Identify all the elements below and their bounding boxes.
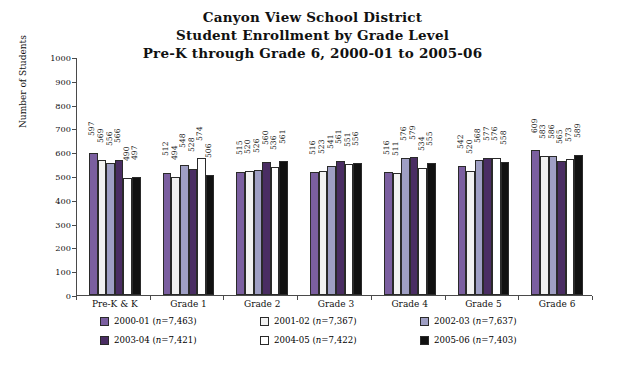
- bar: 548: [180, 165, 189, 295]
- x-axis-tick-label: Grade 1: [163, 299, 215, 309]
- bar-value-label: 579: [405, 144, 414, 159]
- bar: 534: [418, 168, 427, 295]
- legend-swatch: [100, 336, 109, 345]
- bar: 576: [401, 158, 410, 295]
- y-axis-tick-mark: [72, 248, 76, 249]
- bar-value-label: 516: [379, 159, 388, 174]
- bar: 569: [98, 160, 107, 295]
- legend-item: 2005-06 (n=7,403): [420, 335, 580, 345]
- x-axis-tick-mark: [518, 296, 519, 300]
- bar: 609: [531, 150, 540, 295]
- bar: 568: [475, 160, 484, 295]
- y-axis-tick-mark: [72, 201, 76, 202]
- bar: 490: [123, 178, 132, 295]
- bar: 542: [458, 166, 467, 295]
- bar-value-label: 512: [158, 160, 167, 175]
- bar-group: 512494548528574506Grade 1: [163, 57, 215, 295]
- legend-label: 2000-01 (n=7,463): [114, 316, 197, 326]
- legend-swatch: [260, 317, 269, 326]
- bar: 561: [279, 161, 288, 295]
- bar-value-label: 583: [535, 143, 544, 158]
- legend-swatch: [420, 317, 429, 326]
- bar: 556: [106, 163, 115, 295]
- y-axis-tick-mark: [72, 58, 76, 59]
- enrollment-bar-chart: Canyon View School District Student Enro…: [0, 0, 625, 380]
- x-axis-line: [76, 295, 592, 296]
- bar: 579: [410, 157, 419, 295]
- chart-title-block: Canyon View School District Student Enro…: [0, 8, 625, 62]
- y-axis-label: Number of Students: [18, 35, 28, 128]
- bar-value-label: 494: [167, 164, 176, 179]
- x-axis-tick-label: Pre-K & K: [89, 299, 141, 309]
- bar: 511: [393, 173, 402, 295]
- bar-value-label: 497: [127, 163, 136, 178]
- y-axis-tick-mark: [72, 129, 76, 130]
- y-axis-tick-mark: [72, 82, 76, 83]
- bar: 576: [492, 158, 501, 295]
- bar: 520: [466, 171, 475, 295]
- bar: 516: [384, 172, 393, 295]
- x-axis-tick-label: Grade 3: [310, 299, 362, 309]
- bar-value-label: 566: [110, 147, 119, 162]
- legend-swatch: [100, 317, 109, 326]
- bar: 494: [171, 177, 180, 295]
- bar-group: 516523541561551556Grade 3: [310, 57, 362, 295]
- bar-value-label: 573: [561, 145, 570, 160]
- bar: 555: [427, 163, 436, 295]
- y-axis-tick-mark: [72, 153, 76, 154]
- x-axis-tick-mark: [445, 296, 446, 300]
- bar-value-label: 523: [314, 157, 323, 172]
- y-axis-tick-mark: [72, 272, 76, 273]
- bar: 560: [262, 162, 271, 295]
- legend-item: 2001-02 (n=7,367): [260, 316, 420, 326]
- bar: 528: [189, 169, 198, 295]
- bar: 565: [557, 161, 566, 295]
- bar-value-label: 597: [84, 139, 93, 154]
- bar: 577: [483, 158, 492, 295]
- plot-area: 0100200300400500600700800900100059756955…: [76, 58, 592, 296]
- bar: 526: [254, 170, 263, 295]
- chart-title: Canyon View School District: [0, 8, 625, 26]
- bar-value-label: 569: [93, 146, 102, 161]
- legend-label: 2001-02 (n=7,367): [274, 316, 357, 326]
- legend-item: 2000-01 (n=7,463): [100, 316, 260, 326]
- bar-value-label: 561: [275, 148, 284, 163]
- legend-swatch: [260, 336, 269, 345]
- bar: 536: [271, 167, 280, 295]
- y-axis-tick-mark: [72, 177, 76, 178]
- bar: 558: [501, 162, 510, 295]
- bar: 566: [115, 160, 124, 295]
- chart-legend: 2000-01 (n=7,463)2001-02 (n=7,367)2002-0…: [100, 316, 550, 345]
- legend-label: 2003-04 (n=7,421): [114, 335, 197, 345]
- bar: 497: [132, 177, 141, 295]
- bar: 520: [245, 171, 254, 295]
- bar-value-label: 555: [422, 149, 431, 164]
- bar: 556: [353, 163, 362, 295]
- x-axis-tick-mark: [297, 296, 298, 300]
- x-axis-tick-mark: [371, 296, 372, 300]
- bar-group: 516511576579534555Grade 4: [384, 57, 436, 295]
- legend-label: 2002-03 (n=7,637): [434, 316, 517, 326]
- bar-value-label: 568: [470, 146, 479, 161]
- bar-value-label: 511: [388, 160, 397, 175]
- bar: 574: [197, 158, 206, 295]
- legend-item: 2003-04 (n=7,421): [100, 335, 260, 345]
- legend-label: 2004-05 (n=7,422): [274, 335, 357, 345]
- bar: 551: [345, 164, 354, 295]
- bar-value-label: 589: [570, 141, 579, 156]
- bar-value-label: 536: [266, 154, 275, 169]
- x-axis-tick-label: Grade 5: [458, 299, 510, 309]
- x-axis-tick-mark: [150, 296, 151, 300]
- bar: 573: [566, 159, 575, 295]
- legend-swatch: [420, 336, 429, 345]
- bar-value-label: 542: [453, 153, 462, 168]
- bar: 523: [319, 171, 328, 295]
- y-axis-line: [76, 58, 77, 296]
- bar: 541: [327, 166, 336, 295]
- bar: 512: [163, 173, 172, 295]
- x-axis-tick-mark: [592, 296, 593, 300]
- bar-group: 515520526560536561Grade 2: [236, 57, 288, 295]
- bar: 597: [89, 153, 98, 295]
- x-axis-tick-mark: [76, 296, 77, 300]
- bar: 516: [310, 172, 319, 295]
